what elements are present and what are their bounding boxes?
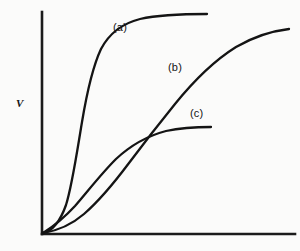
- figure-container: V (a) (b) (c): [0, 0, 300, 251]
- curve-c-label: (c): [190, 108, 203, 119]
- y-axis-label: V: [16, 98, 23, 109]
- curve-a-path: [43, 14, 207, 233]
- curve-c-path: [43, 127, 211, 233]
- curve-b-label: (b): [168, 62, 182, 73]
- plot-canvas: [0, 0, 300, 251]
- curve-a-label: (a): [113, 22, 127, 33]
